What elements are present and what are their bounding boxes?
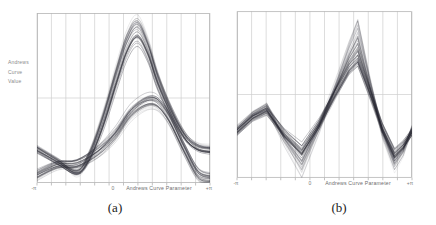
x-tick-zero-a: 0 [112, 185, 115, 191]
x-axis-label-b: Andrews Curve Parameter [325, 180, 391, 186]
figure: Andrews Curve Value -π 0 Andrews Curve P… [0, 0, 436, 225]
x-tick-pos-pi-b: +π [407, 180, 413, 186]
x-tick-pos-pi-a: +π [206, 185, 212, 191]
y-axis-label-line: Value [8, 77, 29, 87]
caption-a: (a) [108, 200, 122, 216]
x-tick-neg-pi-b: -π [233, 180, 238, 186]
x-tick-neg-pi-a: -π [31, 185, 36, 191]
y-axis-label-line: Curve [8, 68, 29, 78]
y-axis-label: Andrews Curve Value [8, 58, 29, 87]
andrews-plot-a [37, 13, 210, 187]
x-axis-label-a: Andrews Curve Parameter [126, 185, 192, 191]
x-tick-zero-b: 0 [309, 180, 312, 186]
andrews-plot-b [237, 11, 412, 182]
y-axis-label-line: Andrews [8, 58, 29, 68]
caption-b: (b) [331, 200, 346, 216]
